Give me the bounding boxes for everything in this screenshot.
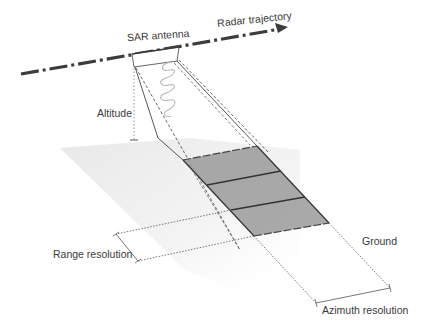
range-resolution-label: Range resolution <box>53 249 132 260</box>
altitude-line <box>130 68 138 140</box>
sar-antenna <box>132 47 179 67</box>
sar-geometry-diagram <box>0 0 427 328</box>
arrowhead-icon <box>275 23 288 33</box>
wave-signal <box>161 62 175 116</box>
ground-label: Ground <box>362 236 397 247</box>
altitude-label: Altitude <box>97 108 132 119</box>
azimuth-resolution-label: Azimuth resolution <box>322 305 408 316</box>
